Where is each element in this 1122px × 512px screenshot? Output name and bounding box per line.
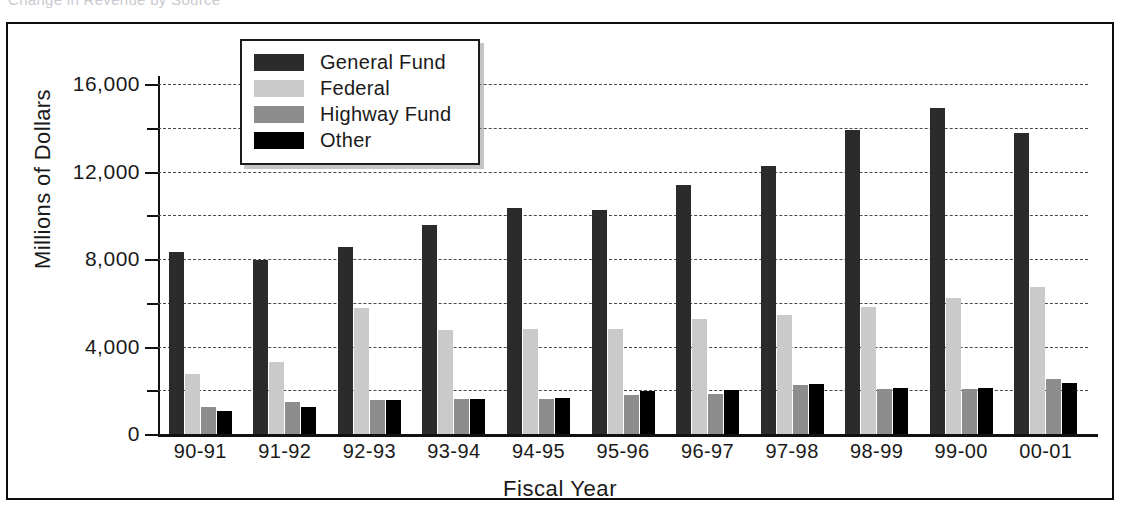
legend-swatch-other [254,132,304,149]
bar-general-fund [845,130,860,434]
bar-federal [777,315,792,434]
bar-federal [354,308,369,434]
category-axis-tick-label: 96-97 [681,440,734,463]
bar-federal [692,319,707,434]
bar-group [761,84,824,434]
bar-other [1062,383,1077,434]
bar-federal [523,329,538,434]
bar-other [978,388,993,434]
bar-group [845,84,908,434]
value-axis-tick-label: 12,000 [73,160,140,184]
legend-label: Federal [320,77,390,100]
value-axis-tick-label: 8,000 [85,247,140,271]
bar-general-fund [253,260,268,434]
value-axis-tick-major [145,172,158,174]
bar-general-fund [930,108,945,434]
value-axis-tick-minor [147,215,158,217]
bar-other [724,390,739,434]
bar-highway-fund [962,389,977,434]
bar-highway-fund [454,399,469,434]
bar-federal [1030,287,1045,434]
legend-swatch-general-fund [254,54,304,71]
bar-other [217,411,232,434]
bar-federal [185,374,200,434]
legend-item-general-fund[interactable]: General Fund [254,49,468,75]
bar-general-fund [422,225,437,434]
bar-group [169,84,232,434]
bar-federal [861,307,876,434]
value-axis-title: Millions of Dollars [30,89,56,269]
bar-general-fund [507,208,522,434]
value-axis-tick-major [145,259,158,261]
legend-item-federal[interactable]: Federal [254,75,468,101]
bar-highway-fund [201,407,216,434]
bar-highway-fund [539,399,554,434]
bar-group [676,84,739,434]
value-axis-tick-label: 16,000 [73,72,140,96]
value-axis-tick-minor [147,128,158,130]
bar-other [809,384,824,434]
bar-other [893,388,908,434]
legend-swatch-highway-fund [254,106,304,123]
bar-general-fund [761,166,776,434]
bar-other [386,400,401,434]
category-axis-tick-label: 99-00 [935,440,988,463]
legend-swatch-federal [254,80,304,97]
bar-general-fund [169,252,184,434]
category-axis-tick-label: 93-94 [427,440,480,463]
value-axis-tick-label: 4,000 [85,335,140,359]
bar-highway-fund [285,402,300,434]
chart-legend: General FundFederalHighway FundOther [240,39,480,165]
bar-highway-fund [708,394,723,434]
clipped-caption-text: Change in Revenue by Source [8,0,220,8]
bar-general-fund [592,210,607,434]
bar-highway-fund [370,400,385,434]
category-axis-tick-label: 97-98 [766,440,819,463]
category-axis-tick-label: 00-01 [1019,440,1072,463]
bar-federal [269,362,284,434]
category-axis-tick-label: 94-95 [512,440,565,463]
legend-label: Highway Fund [320,103,451,126]
legend-item-other[interactable]: Other [254,127,468,153]
bar-highway-fund [877,389,892,434]
bar-federal [608,329,623,434]
bar-group [507,84,570,434]
category-axis-tick-label: 98-99 [850,440,903,463]
legend-label: Other [320,129,372,152]
bar-general-fund [1014,133,1029,434]
category-axis-tick-label: 90-91 [174,440,227,463]
bar-other [555,398,570,434]
bar-general-fund [338,247,353,434]
chart-figure-frame: 04,0008,00012,00016,000 90-9191-9292-939… [6,22,1114,500]
bar-other [301,407,316,434]
category-axis-tick-label: 91-92 [258,440,311,463]
value-axis-tick-minor [147,303,158,305]
bar-federal [438,330,453,434]
category-axis-title: Fiscal Year [8,476,1112,502]
bar-general-fund [676,185,691,434]
bar-other [470,399,485,434]
bar-group [930,84,993,434]
bar-highway-fund [624,395,639,434]
value-axis-tick-minor [147,390,158,392]
value-axis-tick-major [145,347,158,349]
value-axis-tick-major [145,84,158,86]
category-axis-tick-label: 95-96 [596,440,649,463]
value-axis-tick-label: 0 [128,422,140,446]
legend-label: General Fund [320,51,446,74]
bar-group [592,84,655,434]
bar-federal [946,298,961,434]
value-axis-tick-major [145,434,158,436]
legend-item-highway-fund[interactable]: Highway Fund [254,101,468,127]
bar-highway-fund [1046,379,1061,434]
category-axis-tick-label: 92-93 [343,440,396,463]
bar-group [1014,84,1077,434]
category-axis-line [158,434,1098,437]
bar-highway-fund [793,385,808,434]
bar-other [640,391,655,434]
